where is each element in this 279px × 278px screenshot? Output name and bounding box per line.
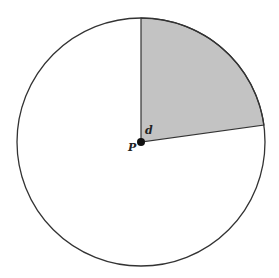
- angle-label: d: [145, 124, 153, 137]
- center-label: P: [128, 141, 136, 154]
- shaded-sector: [141, 18, 264, 142]
- circle-diagram: [0, 0, 279, 278]
- center-point: [137, 138, 145, 146]
